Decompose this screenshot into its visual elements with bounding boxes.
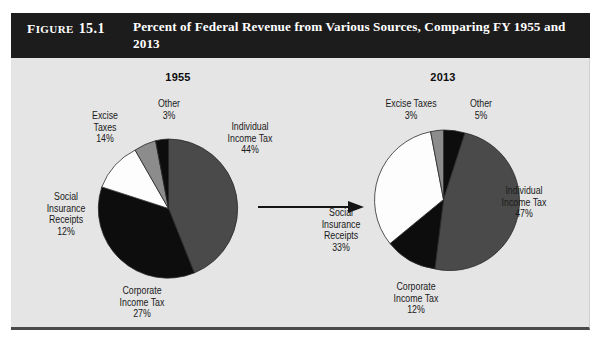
pie-chart-1955 — [97, 137, 262, 302]
figure-word-suffix: IGURE — [36, 23, 74, 35]
figure-container: FIGURE15.1 Percent of Federal Revenue fr… — [11, 13, 590, 330]
figure-word-prefix: F — [27, 21, 36, 36]
pie-title-2013: 2013 — [408, 71, 478, 83]
pie-label-social-insurance-2013: Social Insurance Receipts 33% — [312, 207, 370, 253]
figure-number-label: FIGURE15.1 — [27, 21, 105, 37]
pie-title-1955: 1955 — [143, 71, 213, 83]
pie-label-other-2013: Other 5% — [458, 98, 504, 121]
figure-number: 15.1 — [79, 21, 105, 36]
pie-label-excise-2013: Excise Taxes 3% — [371, 98, 450, 121]
pie-label-individual-1955: Individual Income Tax 44% — [212, 121, 288, 156]
figure-title: Percent of Federal Revenue from Various … — [133, 19, 583, 52]
figure-header-bar: FIGURE15.1 Percent of Federal Revenue fr… — [11, 13, 590, 58]
pie-label-individual-2013: Individual Income Tax 47% — [486, 185, 562, 220]
pie-label-excise-1955: Excise Taxes 14% — [80, 110, 129, 145]
pie-label-corporate-1955: Corporate Income Tax 27% — [104, 285, 180, 320]
pie-label-other-1955: Other 3% — [146, 98, 192, 121]
pie-label-corporate-2013: Corporate Income Tax 12% — [378, 281, 454, 316]
pie-label-social-insurance-1955: Social Insurance Receipts 12% — [37, 191, 95, 237]
